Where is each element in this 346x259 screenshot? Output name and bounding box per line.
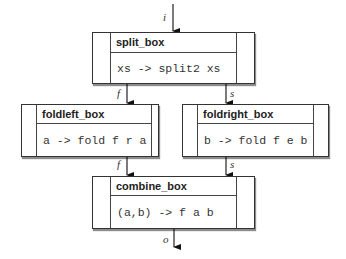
edge-label-f-bottom: f <box>117 158 120 170</box>
combine-box[interactable]: combine_box (a,b) -> f a b <box>92 176 255 229</box>
combine-box-title: combine_box <box>111 177 236 196</box>
foldleft-box-title: foldleft_box <box>37 105 151 124</box>
foldright-box[interactable]: foldright_box b -> fold f e b <box>182 104 329 157</box>
dataflow-diagram: i f s f s o split_box xs -> split2 xs fo… <box>0 0 346 259</box>
combine-box-inner: combine_box (a,b) -> f a b <box>110 177 237 228</box>
foldleft-box[interactable]: foldleft_box a -> fold f r a <box>21 104 159 157</box>
edge-label-o: o <box>163 233 169 245</box>
split-box-code: xs -> split2 xs <box>111 53 236 83</box>
split-box[interactable]: split_box xs -> split2 xs <box>92 32 255 84</box>
foldright-box-inner: foldright_box b -> fold f e b <box>197 105 314 156</box>
edge-label-i: i <box>163 11 166 23</box>
foldleft-box-code: a -> fold f r a <box>37 124 151 156</box>
edge-label-s-bottom: s <box>230 158 234 170</box>
split-box-inner: split_box xs -> split2 xs <box>110 33 237 83</box>
foldright-box-title: foldright_box <box>198 105 313 124</box>
combine-box-code: (a,b) -> f a b <box>111 196 236 228</box>
edge-label-f-top: f <box>117 87 120 99</box>
edge-label-s-top: s <box>230 87 234 99</box>
foldleft-box-inner: foldleft_box a -> fold f r a <box>36 105 152 156</box>
split-box-title: split_box <box>111 33 236 53</box>
foldright-box-code: b -> fold f e b <box>198 124 313 156</box>
